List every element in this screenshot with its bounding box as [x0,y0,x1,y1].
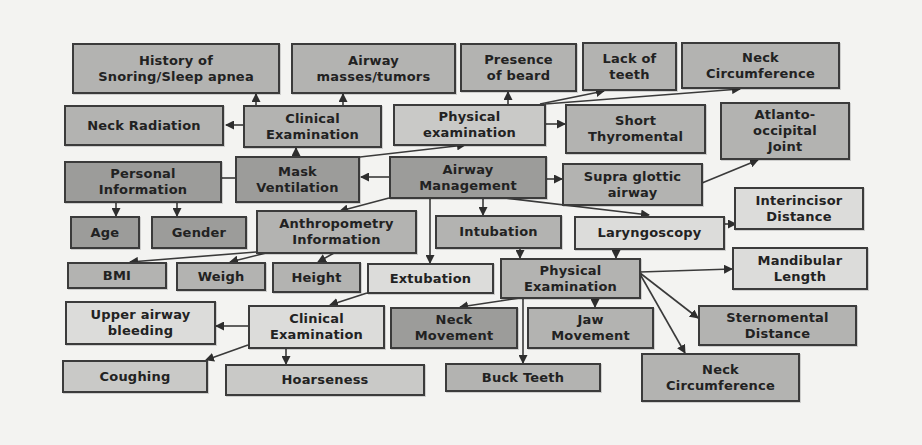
node-label: Atlanto- [753,107,817,123]
node-label: Lack of [603,51,657,67]
node-label: Movement [415,328,494,344]
node-neck-circumference-bottom: NeckCircumference [641,353,800,402]
node-mandibular-length: MandibularLength [732,247,868,290]
node-label: Distance [726,326,828,342]
node-neck-circumference-top: NeckCircumference [681,42,840,89]
node-label: masses/tumors [317,69,431,85]
node-history-snoring: History ofSnoring/Sleep apnea [72,43,280,94]
node-label: Interincisor [756,193,843,209]
node-mask-ventilation: MaskVentilation [235,156,360,203]
node-physical-examination-mid: PhysicalExamination [500,258,641,299]
node-jaw-movement: JawMovement [527,307,654,349]
node-label: Presence [484,52,553,68]
node-label: Airway [317,53,431,69]
node-label: Information [279,232,393,248]
node-lack-teeth: Lack ofteeth [582,42,677,91]
node-hoarseness: Hoarseness [225,364,425,396]
node-label: Gender [172,225,226,241]
node-label: Information [99,182,187,198]
node-label: Coughing [100,369,171,385]
node-label: Neck [666,362,775,378]
node-label: History of [98,53,254,69]
node-bmi: BMI [67,262,167,289]
node-label: Length [758,269,843,285]
node-label: Neck Radiation [87,118,201,134]
node-age: Age [70,216,140,249]
node-label: Buck Teeth [482,370,564,386]
node-label: Personal [99,166,187,182]
node-label: Physical [524,263,617,279]
diagram-container: History ofSnoring/Sleep apnea Airwaymass… [0,0,922,445]
node-label: Short [588,113,683,129]
node-label: examination [423,125,516,141]
node-clinical-examination-bottom: ClinicalExamination [248,305,385,349]
node-clinical-examination-top: ClinicalExamination [243,105,382,148]
node-short-thyromental: ShortThyromental [565,104,706,154]
node-laryngoscopy: Laryngoscopy [574,216,725,250]
node-interincisor-distance: InterincisorDistance [734,187,864,230]
node-intubation: Intubation [435,215,562,249]
node-label: of beard [484,68,553,84]
node-weigh: Weigh [176,262,266,291]
node-height: Height [272,262,361,293]
node-label: bleeding [91,323,191,339]
node-label: Intubation [459,224,538,240]
node-physical-examination-top: Physicalexamination [393,104,546,146]
node-sternomental-distance: SternomentalDistance [698,305,857,346]
node-personal-information: PersonalInformation [64,161,222,203]
node-neck-radiation: Neck Radiation [64,105,224,146]
node-buck-teeth: Buck Teeth [445,363,601,392]
node-label: Management [419,178,517,194]
node-label: Neck [415,312,494,328]
node-coughing: Coughing [62,360,208,393]
node-label: Supra glottic [584,169,682,185]
node-label: BMI [103,268,131,284]
node-label: teeth [603,67,657,83]
node-label: Clinical [270,311,363,327]
node-gender: Gender [151,216,247,249]
node-label: Anthropometry [279,216,393,232]
node-airway-masses: Airwaymasses/tumors [291,43,456,94]
node-label: Examination [266,127,359,143]
node-anthropometry-information: AnthropometryInformation [256,210,417,254]
node-label: Laryngoscopy [598,225,702,241]
node-label: Mandibular [758,253,843,269]
node-label: Thyromental [588,129,683,145]
node-label: Examination [524,279,617,295]
node-label: Movement [551,328,630,344]
node-label: Age [91,225,120,241]
node-label: Weigh [198,269,245,285]
node-label: Snoring/Sleep apnea [98,69,254,85]
node-label: Upper airway [91,307,191,323]
node-upper-airway-bleeding: Upper airwaybleeding [65,301,216,345]
node-label: Height [291,270,341,286]
node-label: Ventilation [256,180,338,196]
node-label: airway [584,185,682,201]
node-label: Extubation [390,271,472,287]
node-presence-beard: Presenceof beard [460,43,577,92]
node-airway-management: AirwayManagement [389,156,547,199]
node-atlanto-occipital: Atlanto-occipitalJoint [720,102,850,160]
node-label: Jaw [551,312,630,328]
node-label: Hoarseness [281,372,368,388]
node-label: Circumference [666,378,775,394]
node-label: Distance [756,209,843,225]
node-label: Joint [753,139,817,155]
node-label: Examination [270,327,363,343]
node-supra-glottic-airway: Supra glotticairway [562,163,703,206]
node-label: occipital [753,123,817,139]
node-label: Neck [706,50,815,66]
node-label: Airway [419,162,517,178]
node-label: Clinical [266,111,359,127]
node-label: Circumference [706,66,815,82]
node-label: Sternomental [726,310,828,326]
node-label: Mask [256,164,338,180]
node-extubation: Extubation [367,263,494,294]
node-neck-movement: NeckMovement [390,307,518,349]
node-label: Physical [423,109,516,125]
